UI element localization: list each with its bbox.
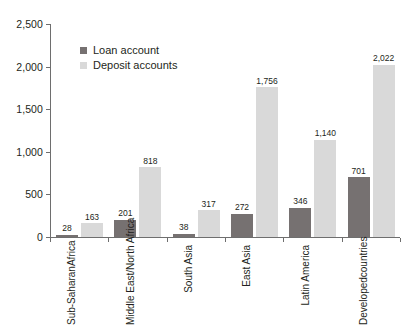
legend: Loan account Deposit accounts [80, 43, 177, 73]
legend-item-deposit-accounts: Deposit accounts [80, 58, 177, 73]
bar-deposit-accounts[interactable]: 2,022 [373, 65, 395, 237]
bar-deposit-accounts[interactable]: 1,756 [256, 87, 278, 237]
category-label-line-1: Developed [358, 277, 369, 325]
bar-value-label: 701 [352, 167, 366, 176]
x-axis-category-label: Developedcountries [358, 245, 384, 325]
bar-loan-account[interactable]: 38 [173, 234, 195, 237]
category-label-line-1: East Asia [241, 245, 252, 287]
y-axis-tick-label: 2,500 [16, 18, 43, 30]
y-axis-tick-label: 2,000 [16, 61, 43, 73]
x-axis-category-label: Middle East/North Africa [125, 245, 151, 325]
bar-value-label: 1,140 [315, 129, 336, 138]
y-axis-tick-label: 500 [25, 188, 43, 200]
bar-value-label: 2,022 [373, 54, 394, 63]
category-label-line-1: South Asia [183, 245, 194, 293]
bar-value-label: 28 [62, 224, 71, 233]
category-label-line-2: Africa [66, 241, 77, 267]
category-label-line-2: North Africa [125, 218, 136, 270]
y-axis-tick-label: 0 [37, 231, 43, 243]
bar-deposit-accounts[interactable]: 1,140 [314, 140, 336, 237]
legend-swatch-icon-deposit-accounts [80, 62, 87, 69]
bar-value-label: 346 [293, 197, 307, 206]
x-axis-category-label: South Asia [183, 245, 209, 325]
bar-deposit-accounts[interactable]: 317 [198, 210, 220, 237]
bar-value-label: 38 [179, 223, 188, 232]
bar-loan-account[interactable]: 346 [289, 208, 311, 237]
y-axis-tick-label: 1,500 [16, 103, 43, 115]
bar-loan-account[interactable]: 701 [348, 177, 370, 237]
bar-group: 2721,756 [225, 24, 283, 237]
legend-item-loan-account: Loan account [80, 43, 177, 58]
bar-value-label: 818 [143, 157, 157, 166]
x-axis-tick-mark [400, 238, 401, 242]
x-axis-tick-mark [342, 238, 343, 242]
bar-value-label: 201 [118, 209, 132, 218]
category-label-line-2: countries [358, 237, 369, 278]
bar-group: 7012,022 [342, 24, 400, 237]
bar-deposit-accounts[interactable]: 163 [81, 223, 103, 237]
bar-value-label: 272 [235, 203, 249, 212]
x-axis-tick-mark [225, 238, 226, 242]
x-axis-tick-mark [283, 238, 284, 242]
x-axis-category-label: Latin America [300, 245, 326, 325]
bar-deposit-accounts[interactable]: 818 [139, 167, 161, 237]
y-axis-tick-label: 1,000 [16, 146, 43, 158]
bar-loan-account[interactable]: 28 [56, 235, 78, 237]
legend-label-loan-account: Loan account [93, 44, 159, 57]
bar-chart: 05001,0001,5002,0002,500 281632018183831… [0, 0, 414, 327]
bar-value-label: 163 [85, 213, 99, 222]
category-label-line-1: Latin America [300, 245, 311, 306]
bar-group: 3461,140 [283, 24, 341, 237]
x-axis-category-label: Sub-SaharanAfrica [66, 245, 92, 325]
bar-value-label: 1,756 [256, 77, 277, 86]
bar-loan-account[interactable]: 272 [231, 214, 253, 237]
category-label-line-1: Middle East/ [125, 270, 136, 325]
legend-label-deposit-accounts: Deposit accounts [93, 59, 177, 72]
x-axis-category-label: East Asia [241, 245, 267, 325]
category-label-line-1: Sub-Saharan [66, 266, 77, 325]
x-axis-tick-mark [108, 238, 109, 242]
legend-swatch-icon-loan-account [80, 47, 87, 54]
x-axis-tick-mark [50, 238, 51, 242]
bar-value-label: 317 [202, 200, 216, 209]
x-axis-tick-mark [167, 238, 168, 242]
